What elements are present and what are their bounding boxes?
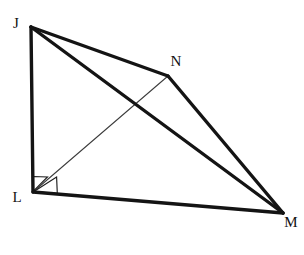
diagonal-jm <box>31 27 283 213</box>
segment-jn <box>31 27 168 76</box>
vertex-label-m: M <box>284 214 297 230</box>
geometry-figure: J N M L <box>0 0 304 255</box>
vertex-label-j: J <box>13 15 19 31</box>
segment-ml <box>33 192 283 213</box>
vertex-label-l: L <box>12 189 21 205</box>
segment-ln <box>33 76 168 192</box>
vertex-label-n: N <box>171 53 182 69</box>
segment-lj <box>31 27 33 192</box>
segment-nm <box>168 76 283 213</box>
geometry-canvas: J N M L <box>0 0 304 255</box>
